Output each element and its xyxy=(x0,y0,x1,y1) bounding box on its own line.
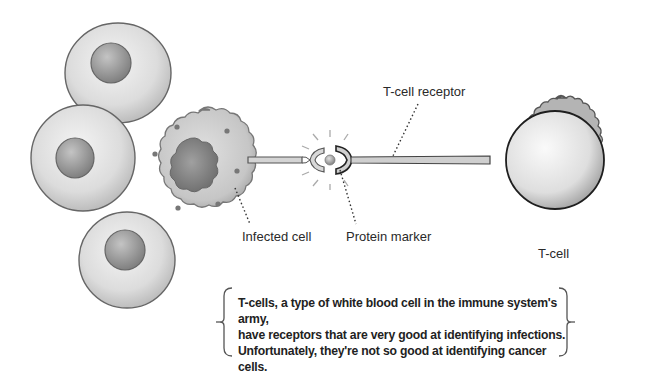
tcell-label: T-cell xyxy=(538,246,569,261)
infected-cell xyxy=(152,107,256,211)
caption-text: T-cells, a type of white blood cell in t… xyxy=(238,295,578,375)
caption-line: Unfortunately, they're not so good at id… xyxy=(238,343,578,375)
protein-marker-label: Protein marker xyxy=(346,229,431,244)
infected-cell-label: Infected cell xyxy=(242,229,311,244)
normal-cell-bottom xyxy=(79,212,175,308)
tcell xyxy=(506,96,604,210)
mhc-stem xyxy=(248,148,324,172)
protein-marker xyxy=(325,155,335,165)
tcell-receptor xyxy=(336,146,490,174)
caption-line: T-cells, a type of white blood cell in t… xyxy=(238,295,578,327)
caption-line: have receptors that are very good at ide… xyxy=(238,327,578,343)
tcell-receptor-label: T-cell receptor xyxy=(383,84,465,99)
normal-cell-middle xyxy=(31,105,135,211)
